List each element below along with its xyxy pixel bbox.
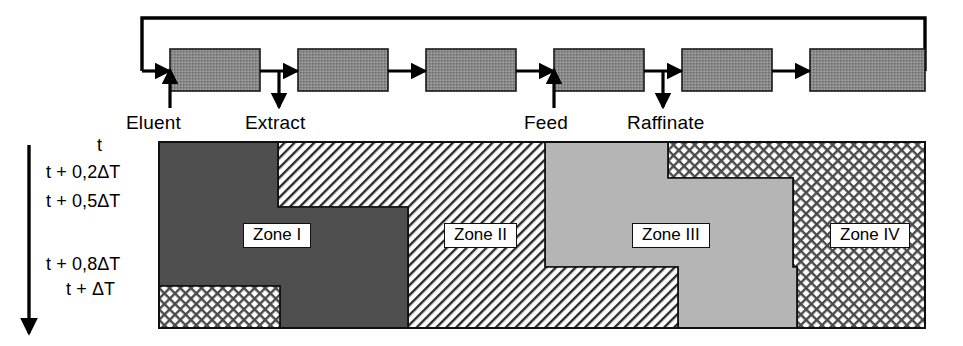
time-tick-4: t + ΔT	[66, 280, 115, 298]
time-tick-0: t	[97, 136, 102, 154]
column-5	[682, 49, 772, 91]
zone-label-1: Zone I	[243, 223, 311, 248]
time-tick-3: t + 0,8ΔT	[46, 255, 120, 273]
stream-label-feed: Feed	[524, 113, 568, 132]
flowsheet-group	[142, 18, 925, 108]
column-3	[426, 49, 516, 91]
stream-label-raffinate: Raffinate	[627, 113, 705, 132]
zone-label-3: Zone III	[632, 223, 710, 248]
figure-root: Eluent Extract Feed Raffinate t t + 0,2Δ…	[0, 0, 963, 346]
column-1	[170, 49, 260, 91]
column-4	[554, 49, 644, 91]
smb-diagram	[0, 0, 963, 346]
zone-label-2: Zone II	[444, 223, 517, 248]
column-2	[298, 49, 388, 91]
zone-4-wrap-region	[159, 286, 280, 328]
zone-label-4: Zone IV	[830, 223, 910, 248]
stream-label-eluent: Eluent	[126, 113, 181, 132]
stream-label-extract: Extract	[245, 113, 306, 132]
time-tick-1: t + 0,2ΔT	[46, 163, 120, 181]
time-tick-2: t + 0,5ΔT	[46, 192, 120, 210]
column-6	[810, 49, 925, 91]
